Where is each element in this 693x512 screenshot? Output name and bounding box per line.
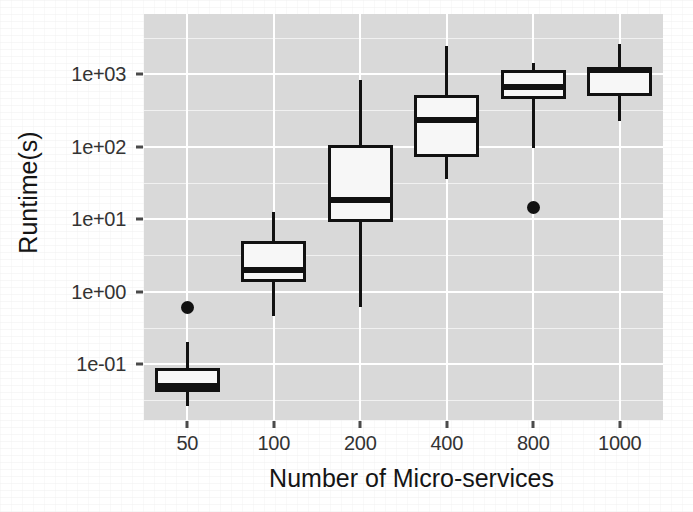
x-tick-mark bbox=[186, 421, 189, 428]
x-tick-mark bbox=[445, 421, 448, 428]
whisker-lower bbox=[532, 99, 535, 147]
x-tick-label-800: 800 bbox=[517, 432, 549, 455]
y-tick-label: 1e+01 bbox=[8, 208, 126, 231]
y-tick-label: 1e+02 bbox=[8, 135, 126, 158]
gridline-minor-h bbox=[144, 38, 663, 39]
whisker-lower bbox=[445, 157, 448, 179]
median-line bbox=[414, 117, 479, 123]
whisker-upper bbox=[445, 46, 448, 95]
gridline-minor-h bbox=[144, 255, 663, 256]
gridline-minor-h bbox=[144, 400, 663, 401]
x-tick-label-400: 400 bbox=[431, 432, 463, 455]
y-tick-label: 1e+03 bbox=[8, 63, 126, 86]
median-line bbox=[501, 84, 566, 90]
x-tick-label-100: 100 bbox=[258, 432, 290, 455]
whisker-upper bbox=[186, 342, 189, 368]
box-iqr bbox=[587, 69, 652, 97]
whisker-upper bbox=[272, 212, 275, 241]
whisker-lower bbox=[359, 222, 362, 307]
y-tick-label: 1e+00 bbox=[8, 280, 126, 303]
x-tick-label-200: 200 bbox=[344, 432, 376, 455]
box-iqr bbox=[328, 145, 393, 222]
x-tick-mark bbox=[359, 421, 362, 428]
outlier-point bbox=[527, 201, 540, 214]
x-axis-title-text: Number of Micro-services bbox=[139, 464, 554, 493]
y-tick-mark bbox=[136, 73, 143, 76]
x-tick-mark bbox=[532, 421, 535, 428]
whisker-upper bbox=[618, 44, 621, 69]
x-tick-mark bbox=[272, 421, 275, 428]
whisker-lower bbox=[618, 96, 621, 121]
median-line bbox=[587, 67, 652, 73]
y-tick-mark bbox=[136, 363, 143, 366]
median-line bbox=[155, 383, 220, 389]
y-tick-mark bbox=[136, 145, 143, 148]
plot-panel bbox=[144, 14, 663, 420]
gridline-minor-h bbox=[144, 328, 663, 329]
x-tick-label-1000: 1000 bbox=[598, 432, 641, 455]
gridline-major-h bbox=[144, 146, 663, 148]
box-iqr bbox=[241, 241, 306, 282]
gridline-minor-h bbox=[144, 183, 663, 184]
y-tick-mark bbox=[136, 218, 143, 221]
median-line bbox=[328, 197, 393, 203]
whisker-lower bbox=[186, 392, 189, 405]
gridline-minor-h bbox=[144, 110, 663, 111]
x-tick-mark bbox=[618, 421, 621, 428]
y-tick-label: 1e-01 bbox=[8, 353, 126, 376]
gridline-major-h bbox=[144, 73, 663, 75]
x-tick-label-50: 50 bbox=[176, 432, 198, 455]
gridline-major-h bbox=[144, 363, 663, 365]
gridline-major-h bbox=[144, 291, 663, 293]
x-axis-title: Number of Micro-services bbox=[0, 464, 693, 493]
whisker-upper bbox=[359, 80, 362, 144]
box-iqr bbox=[155, 368, 220, 392]
y-axis-title: Runtime(s) bbox=[14, 73, 43, 313]
gridline-major-h bbox=[144, 218, 663, 220]
y-tick-mark bbox=[136, 290, 143, 293]
median-line bbox=[241, 267, 306, 273]
outlier-point bbox=[181, 301, 194, 314]
boxplot-figure: Runtime(s) 1e+031e+021e+011e+001e-01 501… bbox=[0, 0, 693, 512]
whisker-lower bbox=[272, 282, 275, 316]
box-iqr bbox=[414, 95, 479, 157]
whisker-upper bbox=[532, 63, 535, 70]
